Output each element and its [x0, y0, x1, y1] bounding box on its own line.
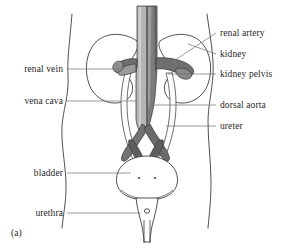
- label-ureter: ureter: [220, 121, 243, 132]
- bladder-group: [116, 156, 177, 243]
- renal-vein-kidney-hilum: [113, 61, 123, 72]
- vena-cava-body: [136, 6, 147, 132]
- label-urethra: urethra: [35, 208, 63, 219]
- urethra-orifice: [144, 209, 149, 213]
- dorsal-aorta-vessel: [147, 6, 157, 132]
- anatomy-figure: renal vein vena cava bladder urethra ren…: [0, 0, 293, 251]
- label-kidney: kidney: [220, 49, 246, 60]
- label-renal-artery: renal artery: [220, 28, 265, 39]
- label-dorsal-aorta: dorsal aorta: [220, 100, 266, 111]
- ureter-opening-left: [138, 177, 140, 179]
- label-vena-cava: vena cava: [24, 96, 63, 107]
- bladder-neck: [136, 198, 158, 242]
- label-kidney-pelvis: kidney pelvis: [220, 69, 272, 80]
- label-renal-vein: renal vein: [24, 64, 63, 75]
- body-outline-left: [62, 14, 72, 228]
- vena-cava-vessel: [136, 6, 147, 132]
- label-bladder: bladder: [34, 168, 63, 179]
- body-outline-right: [207, 14, 213, 228]
- ureter-opening-right: [154, 177, 156, 179]
- figure-caption: (a): [11, 228, 22, 238]
